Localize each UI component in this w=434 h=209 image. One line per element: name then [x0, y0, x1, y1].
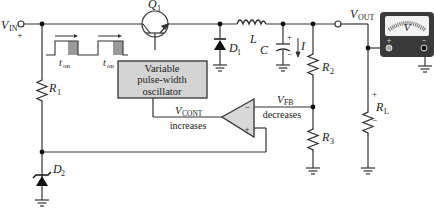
capacitor-label: C	[260, 43, 269, 57]
d1-sub-label: 1	[237, 48, 241, 57]
ton1-label: t	[59, 57, 62, 68]
rl-label: R	[375, 100, 384, 114]
rl-sub-label: L	[384, 107, 389, 116]
opamp-plus-label: +	[244, 124, 249, 134]
ton2-sub-label: on	[107, 62, 115, 70]
vin-terminal	[18, 21, 24, 27]
oscillator-label-line1: Variable	[145, 63, 180, 74]
vin-plus-label: +	[17, 30, 23, 41]
transistor-q1-icon	[142, 11, 168, 37]
opamp-minus-label: −	[244, 102, 249, 112]
zener-diode-d2-icon	[33, 172, 51, 196]
r3-sub-label: 3	[330, 137, 334, 146]
oscillator-label-line2: pulse-width	[137, 74, 187, 85]
diode-d1-icon	[214, 39, 226, 50]
circuit-diagram: V IN + Q 1 L C + − I D 1 V OUT R 1 R 2 R…	[0, 0, 434, 209]
current-arrow-icon	[296, 38, 300, 57]
vfb-sub-label: FB	[284, 98, 293, 107]
meter-plus-label: +	[387, 36, 392, 45]
voltmeter-icon	[380, 12, 434, 57]
vout-terminal	[335, 21, 341, 27]
inductor-label: L	[249, 32, 257, 46]
d2-sub-label: 2	[61, 169, 65, 178]
vfb-note: decreases	[263, 109, 301, 120]
ground-icons	[35, 65, 432, 206]
cap-plus-label: +	[287, 32, 292, 42]
vcont-sub-label: CONT	[182, 109, 203, 118]
r3-label: R	[321, 130, 330, 144]
vcont-note: increases	[170, 120, 207, 131]
q1-label: Q	[148, 0, 157, 11]
r2-label: R	[321, 60, 330, 74]
pulse-waveform-icon	[46, 34, 128, 55]
rl-plus-label: +	[372, 89, 377, 99]
rl-minus-label: −	[372, 115, 377, 125]
r1-sub-label: 1	[57, 88, 61, 97]
oscillator-label-line3: oscillator	[142, 86, 182, 97]
meter-minus-label: −	[422, 36, 427, 45]
ton1-sub-label: on	[63, 62, 71, 70]
cap-minus-label: −	[287, 49, 292, 59]
r2-sub-label: 2	[330, 67, 334, 76]
vout-sub-label: OUT	[358, 13, 375, 22]
inductor-icon	[237, 20, 266, 24]
ton2-label: t	[103, 57, 106, 68]
current-label: I	[300, 39, 306, 53]
r1-label: R	[48, 81, 57, 95]
q1-sub-label: 1	[157, 4, 161, 13]
